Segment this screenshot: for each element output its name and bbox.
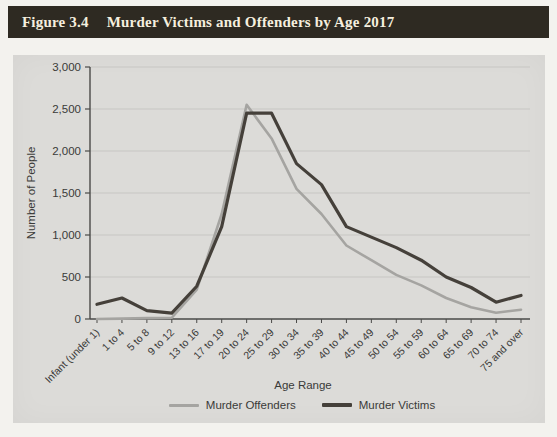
- x-category-label: Infant (under 1): [42, 326, 101, 385]
- y-tick-label: 2,000: [52, 145, 81, 157]
- legend-label-offenders: Murder Offenders: [206, 399, 296, 411]
- legend-item-murder-offenders: Murder Offenders: [169, 399, 296, 411]
- line-chart: 05001,0001,5002,0002,5003,000Infant (und…: [13, 55, 545, 423]
- legend-item-murder-victims: Murder Victims: [322, 399, 435, 411]
- y-tick-label: 2,500: [52, 103, 81, 115]
- figure-number: Figure 3.4: [22, 14, 89, 31]
- series-line-murder-victims: [97, 113, 521, 313]
- y-tick-label: 3,000: [52, 61, 81, 73]
- legend-line-swatch-victims: [322, 403, 352, 407]
- y-axis-title: Number of People: [25, 147, 37, 240]
- y-tick-label: 0: [75, 313, 81, 325]
- figure-header: Figure 3.4 Murder Victims and Offenders …: [8, 6, 549, 38]
- y-tick-label: 1,000: [52, 229, 81, 241]
- legend-label-victims: Murder Victims: [359, 399, 435, 411]
- legend-line-swatch-offenders: [169, 404, 199, 407]
- x-category-label: 1 to 4: [99, 326, 126, 353]
- chart-legend: Murder Offenders Murder Victims: [13, 399, 545, 411]
- series-line-murder-offenders: [97, 105, 521, 319]
- chart-panel: 05001,0001,5002,0002,5003,000Infant (und…: [13, 55, 545, 423]
- y-tick-label: 500: [62, 271, 81, 283]
- x-axis-title: Age Range: [274, 379, 332, 391]
- figure-title: Murder Victims and Offenders by Age 2017: [107, 14, 395, 31]
- y-tick-label: 1,500: [52, 187, 81, 199]
